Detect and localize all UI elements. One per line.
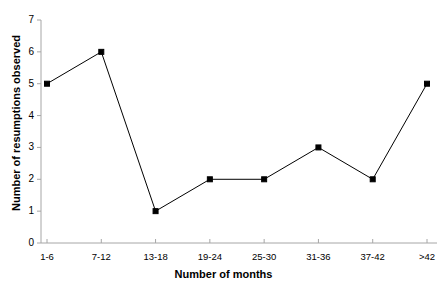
data-point-marker (99, 49, 104, 54)
data-point-marker (262, 177, 267, 182)
plot-area (0, 0, 447, 294)
data-point-marker (207, 177, 212, 182)
data-point-marker (153, 209, 158, 214)
data-line (47, 52, 427, 211)
data-point-marker (425, 81, 430, 86)
data-point-marker (316, 145, 321, 150)
data-point-marker (370, 177, 375, 182)
line-chart: Number of resumptions observed Number of… (0, 0, 447, 294)
data-point-marker (45, 81, 50, 86)
